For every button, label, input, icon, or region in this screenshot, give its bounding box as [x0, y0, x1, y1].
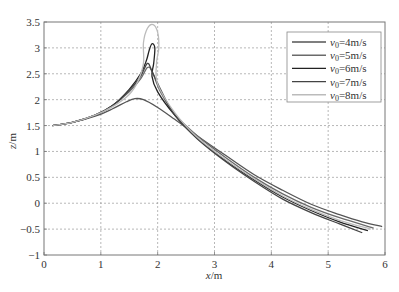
x-tick-label: 0: [41, 258, 47, 270]
y-tick-label: 3.5: [26, 16, 40, 28]
y-tick-label: 2: [35, 94, 41, 106]
trajectory-chart: 0123456−1−0.500.511.522.533.5 x/m z/m v0…: [0, 0, 399, 292]
x-tick-label: 1: [98, 258, 104, 270]
x-tick-label: 4: [269, 258, 275, 270]
x-axis-label: x/m: [205, 269, 223, 281]
y-tick-label: 0: [35, 197, 41, 209]
x-tick-label: 2: [155, 258, 161, 270]
y-tick-label: 0.5: [26, 171, 40, 183]
y-tick-label: −1: [28, 249, 40, 261]
y-tick-label: 1.5: [26, 120, 40, 132]
y-tick-label: 3: [35, 42, 41, 54]
x-tick-label: 5: [325, 258, 331, 270]
legend: v0=4m/sv0=5m/sv0=6m/sv0=7m/sv0=8m/s: [287, 32, 381, 103]
y-tick-label: 2.5: [26, 68, 40, 80]
y-axis-label: z/m: [6, 133, 18, 150]
x-tick-label: 6: [382, 258, 388, 270]
y-tick-label: 1: [35, 145, 41, 157]
y-tick-label: −0.5: [20, 223, 40, 235]
series-line: [53, 98, 383, 226]
